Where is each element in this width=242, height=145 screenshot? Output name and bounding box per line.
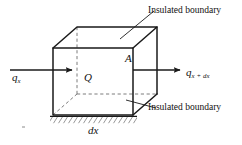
cube-top-face — [53, 27, 157, 48]
cross-section-area-label: A — [125, 53, 132, 64]
internal-generation-label: Q — [84, 72, 92, 83]
heat-flux-in-label: qx — [12, 72, 21, 84]
cube-front-face — [53, 48, 133, 115]
thickness-symbol-x: x — [94, 124, 99, 136]
heat-conduction-diagram: Insulated boundary Insulated boundary qx… — [0, 0, 242, 145]
heat-flux-in-subscript: x — [18, 77, 21, 84]
hidden-edge-bottom-left-depth — [53, 94, 77, 115]
heat-flux-out-label: qx + dx — [186, 67, 210, 79]
hatch-fill — [50, 117, 137, 124]
thickness-label: dx — [88, 125, 98, 136]
ground-hatching — [50, 116, 137, 123]
insulated-boundary-top-label: Insulated boundary — [148, 6, 221, 16]
insulated-boundary-bottom-label: Insulated boundary — [148, 103, 221, 113]
heat-flux-out-subscript: x + dx — [192, 72, 210, 79]
